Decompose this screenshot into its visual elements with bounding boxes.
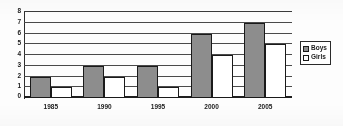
x-axis-label-2000: 2000	[204, 104, 218, 111]
bar-boys-1995	[137, 66, 158, 98]
bar-boys-2005	[244, 23, 265, 98]
bar-girls-1985	[51, 87, 72, 98]
bar-boys-1990	[83, 66, 104, 98]
bars-layer	[24, 12, 292, 98]
bar-boys-1985	[30, 77, 51, 99]
bar-group	[191, 12, 233, 98]
boys-swatch-icon	[303, 46, 309, 52]
bar-group	[30, 12, 72, 98]
girls-swatch-icon	[303, 55, 309, 61]
x-axis-label-1995: 1995	[151, 104, 165, 111]
bar-group	[137, 12, 179, 98]
bar-group	[244, 12, 286, 98]
y-axis-tick-label: 2	[17, 72, 21, 79]
bar-chart-screenshot: 012345678 19851990199520002005 BoysGirls	[0, 0, 343, 126]
x-axis-label-1990: 1990	[97, 104, 111, 111]
bar-girls-2005	[265, 44, 286, 98]
y-axis-tick-label: 4	[17, 51, 21, 58]
y-axis-tick-label: 1	[17, 83, 21, 90]
bar-boys-2000	[191, 34, 212, 99]
legend-label: Boys	[311, 45, 327, 52]
y-axis-tick-label: 7	[17, 19, 21, 26]
y-axis-tick-label: 3	[17, 62, 21, 69]
y-axis-tick-label: 8	[17, 8, 21, 15]
chart-legend: BoysGirls	[300, 41, 331, 65]
y-axis-tick-label: 5	[17, 40, 21, 47]
plot-area: 012345678	[24, 12, 292, 98]
legend-label: Girls	[311, 54, 326, 61]
bar-girls-1995	[158, 87, 179, 98]
y-axis-tick-label: 6	[17, 29, 21, 36]
bar-girls-1990	[104, 77, 125, 99]
legend-item-boys: Boys	[303, 44, 327, 53]
y-axis-tick-label: 0	[17, 93, 21, 100]
x-axis-label-1985: 1985	[44, 104, 58, 111]
x-axis-label-2005: 2005	[258, 104, 272, 111]
bar-girls-2000	[212, 55, 233, 98]
bar-group	[83, 12, 125, 98]
legend-item-girls: Girls	[303, 53, 327, 62]
